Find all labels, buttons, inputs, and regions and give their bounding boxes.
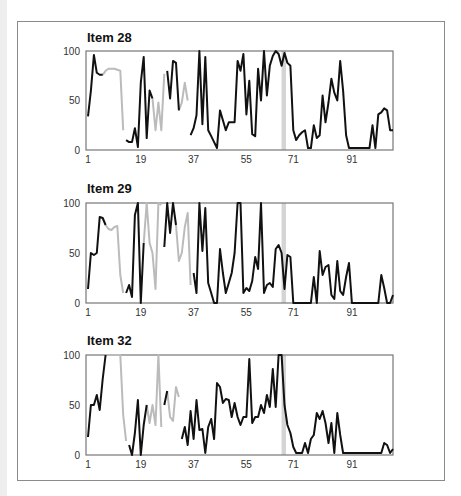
plot-2: 05010011937557191 xyxy=(63,350,393,471)
y-tick-label: 0 xyxy=(74,450,80,461)
x-tick-label: 37 xyxy=(188,459,200,470)
x-tick-label: 55 xyxy=(241,307,253,318)
x-tick-label: 1 xyxy=(85,459,91,470)
data-line xyxy=(88,203,393,303)
missing-data-line xyxy=(106,355,127,441)
missing-data-line xyxy=(103,69,124,130)
x-tick-label: 91 xyxy=(346,459,358,470)
line-charts: 0501001193755719105010011937557191050100… xyxy=(0,0,461,496)
data-line xyxy=(88,355,393,455)
y-tick-label: 0 xyxy=(74,298,80,309)
x-tick-label: 1 xyxy=(85,307,91,318)
missing-data-line xyxy=(176,213,191,285)
y-tick-label: 50 xyxy=(69,400,81,411)
x-tick-label: 71 xyxy=(288,459,300,470)
x-tick-label: 91 xyxy=(346,154,358,165)
x-tick-label: 19 xyxy=(135,154,147,165)
x-tick-label: 1 xyxy=(85,154,91,165)
plot-1: 05010011937557191 xyxy=(63,198,393,319)
x-tick-label: 71 xyxy=(288,307,300,318)
y-tick-label: 100 xyxy=(63,350,80,361)
missing-data-line xyxy=(167,387,179,421)
plot-0: 05010011937557191 xyxy=(63,46,393,166)
x-tick-label: 37 xyxy=(188,307,200,318)
x-tick-label: 71 xyxy=(288,154,300,165)
missing-data-line xyxy=(106,225,124,293)
x-tick-label: 19 xyxy=(135,307,147,318)
y-tick-label: 0 xyxy=(74,145,80,156)
plot-frame xyxy=(86,355,393,455)
y-tick-label: 50 xyxy=(69,248,81,259)
x-tick-label: 91 xyxy=(346,307,358,318)
data-line xyxy=(88,51,393,148)
y-tick-label: 50 xyxy=(69,95,81,106)
x-tick-label: 37 xyxy=(188,154,200,165)
y-tick-label: 100 xyxy=(63,46,80,57)
x-tick-label: 55 xyxy=(241,154,253,165)
missing-data-line xyxy=(153,74,165,130)
y-tick-label: 100 xyxy=(63,198,80,209)
missing-data-line xyxy=(144,203,162,289)
x-tick-label: 55 xyxy=(241,459,253,470)
missing-data-line xyxy=(179,83,188,111)
missing-data-line xyxy=(147,355,162,427)
x-tick-label: 19 xyxy=(135,459,147,470)
